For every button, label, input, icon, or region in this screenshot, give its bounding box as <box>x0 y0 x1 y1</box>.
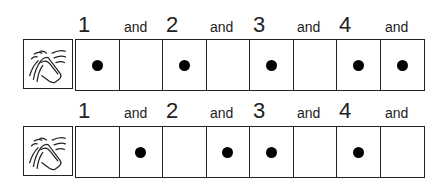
beat-dot-icon <box>397 60 408 71</box>
count-label: and <box>210 20 233 34</box>
beat-cell[interactable] <box>294 40 338 90</box>
clapping-hands-icon <box>23 39 73 89</box>
beat-cell[interactable] <box>163 40 207 90</box>
beat-cell[interactable] <box>250 40 294 90</box>
count-label: 4 <box>339 100 351 122</box>
count-label: and <box>124 20 147 34</box>
count-label: and <box>297 106 320 120</box>
beat-cell[interactable] <box>250 127 294 177</box>
beat-cell[interactable] <box>120 40 164 90</box>
beat-dot-icon <box>353 60 364 71</box>
beat-grid <box>75 39 425 91</box>
beat-dot-icon <box>135 147 146 158</box>
beat-cell[interactable] <box>76 127 120 177</box>
rhythm-row-2: 1and2and3and4and <box>0 88 447 182</box>
count-label: and <box>385 20 408 34</box>
count-label: 3 <box>253 14 265 36</box>
count-label: and <box>124 106 147 120</box>
beat-grid <box>75 126 425 178</box>
beat-dot-icon <box>222 147 233 158</box>
beat-dot-icon <box>266 60 277 71</box>
count-label: 1 <box>78 100 90 122</box>
beat-cell[interactable] <box>294 127 338 177</box>
beat-cell[interactable] <box>381 127 425 177</box>
beat-cell[interactable] <box>337 40 381 90</box>
count-label: 1 <box>78 14 90 36</box>
count-label: and <box>210 106 233 120</box>
beat-cell[interactable] <box>207 127 251 177</box>
beat-cell[interactable] <box>163 127 207 177</box>
beat-cell[interactable] <box>120 127 164 177</box>
beat-dot-icon <box>266 147 277 158</box>
beat-dot-icon <box>353 147 364 158</box>
beat-cell[interactable] <box>76 40 120 90</box>
count-label: 4 <box>339 14 351 36</box>
beat-cell[interactable] <box>337 127 381 177</box>
count-label: 3 <box>253 100 265 122</box>
beat-cell[interactable] <box>207 40 251 90</box>
beat-dot-icon <box>179 60 190 71</box>
beat-cell[interactable] <box>381 40 425 90</box>
count-label: and <box>297 20 320 34</box>
beat-dot-icon <box>92 60 103 71</box>
count-label: and <box>385 106 408 120</box>
clapping-hands-icon <box>23 126 73 176</box>
rhythm-row-1: 1and2and3and4and <box>0 0 447 94</box>
count-label: 2 <box>166 14 178 36</box>
count-label: 2 <box>166 100 178 122</box>
